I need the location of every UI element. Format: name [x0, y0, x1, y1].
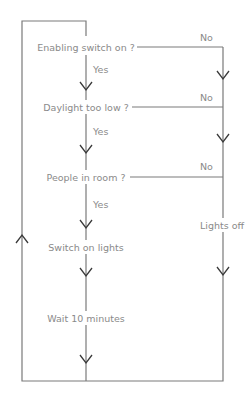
no-label-3: No: [200, 161, 213, 172]
action-lights-off: Lights off: [200, 220, 244, 231]
yes-label-1: Yes: [92, 64, 108, 75]
yes-label-3: Yes: [92, 199, 108, 210]
decision-enabling-switch: Enabling switch on ?: [37, 42, 134, 53]
decision-daylight: Daylight too low ?: [43, 102, 129, 113]
no-label-2: No: [200, 92, 213, 103]
action-wait: Wait 10 minutes: [47, 313, 125, 324]
yes-label-2: Yes: [92, 126, 108, 137]
no-label-1: No: [200, 32, 213, 43]
loop-line: [22, 21, 223, 381]
action-switch-on: Switch on lights: [48, 242, 123, 253]
flowchart: Enabling switch on ? Daylight too low ? …: [0, 0, 251, 401]
decision-people: People in room ?: [47, 172, 126, 183]
